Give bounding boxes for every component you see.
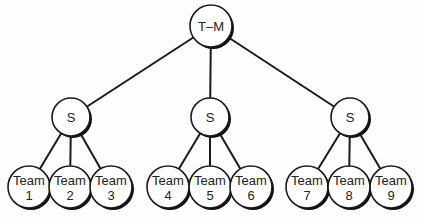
node-label: 3	[107, 188, 114, 203]
node-label: 1	[25, 188, 32, 203]
supervisor-node-1: S	[52, 98, 92, 138]
org-tree-diagram: T–MSSSTeam1Team2Team3Team4Team5Team6Team…	[0, 0, 424, 218]
team-node-3: Team3	[90, 166, 134, 210]
node-label: S	[346, 110, 355, 125]
team-node-6: Team6	[230, 166, 274, 210]
node-label: 6	[247, 188, 254, 203]
tree-canvas: T–MSSSTeam1Team2Team3Team4Team5Team6Team…	[0, 0, 424, 218]
team-node-9: Team9	[370, 166, 414, 210]
node-label: Team	[291, 173, 323, 188]
node-label: Team	[13, 173, 45, 188]
team-node-7: Team7	[286, 166, 330, 210]
supervisor-node-2: S	[191, 98, 231, 138]
node-label: 9	[387, 188, 394, 203]
node-label: 7	[303, 188, 310, 203]
team-node-1: Team1	[8, 166, 52, 210]
node-label: 2	[66, 188, 73, 203]
team-node-8: Team8	[328, 166, 372, 210]
node-label: 4	[164, 188, 171, 203]
node-label: Team	[95, 173, 127, 188]
node-label: Team	[152, 173, 184, 188]
node-label: S	[67, 110, 76, 125]
node-label: Team	[194, 173, 226, 188]
node-label: Team	[54, 173, 86, 188]
node-label: S	[206, 110, 215, 125]
team-node-5: Team5	[189, 166, 233, 210]
edge-root-to-supervisor-3	[211, 26, 350, 117]
edge-root-to-supervisor-1	[71, 26, 211, 117]
node-label: 8	[345, 188, 352, 203]
node-label: 5	[206, 188, 213, 203]
team-node-2: Team2	[49, 166, 93, 210]
node-label: Team	[235, 173, 267, 188]
root-node-tm: T–M	[190, 5, 234, 49]
node-label: Team	[375, 173, 407, 188]
nodes: T–MSSSTeam1Team2Team3Team4Team5Team6Team…	[8, 5, 414, 210]
supervisor-node-3: S	[331, 98, 371, 138]
node-label: T–M	[198, 19, 224, 34]
team-node-4: Team4	[147, 166, 191, 210]
node-label: Team	[333, 173, 365, 188]
